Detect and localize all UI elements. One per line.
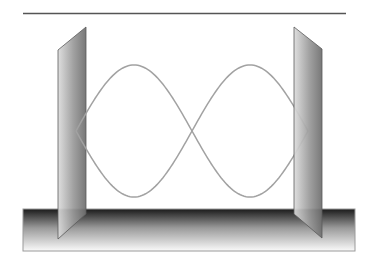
- right-plate: [294, 27, 322, 238]
- left-plate: [58, 27, 86, 239]
- diagram-canvas: [0, 0, 376, 265]
- wave-negative: [76, 65, 308, 197]
- standing-wave-diagram: Standing wave between two reflecting pla…: [0, 0, 376, 265]
